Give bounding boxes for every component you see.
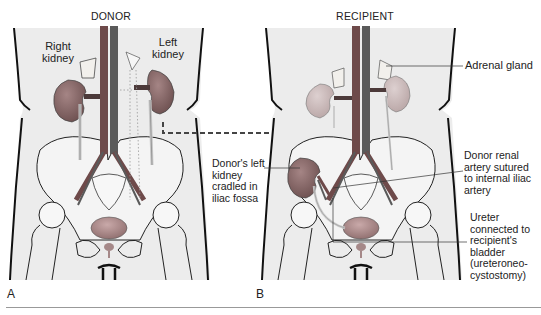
donor-kidney-label-line: cradled in [212,181,272,193]
left-kidney-label-line: kidney [148,49,188,61]
renal-artery-label: Donor renal artery sutured to internal i… [464,150,541,196]
left-kidney-label-line: Left [148,37,188,49]
kidney-transplant-figure: DONOR Right kidney Left kidney A RECIPIE… [0,0,541,315]
right-kidney-label-line: Right [38,41,78,53]
recipient-panel [262,26,467,280]
ureter-label-line: recipient's [470,235,541,247]
ureter-label-line: (ureteroneo- [470,258,541,270]
donor-title: DONOR [86,11,136,23]
renal-artery-label-line: to internal iliac [464,173,541,185]
left-kidney-label: Left kidney [148,37,188,60]
ureter-label-line: Ureter [470,212,541,224]
bottom-divider [6,307,541,308]
renal-artery-label-line: artery [464,185,541,197]
right-kidney-label: Right kidney [38,41,78,64]
recipient-title: RECIPIENT [330,11,400,23]
panel-letter-b: B [256,289,264,301]
donor-kidney-label: Donor's left kidney cradled in iliac fos… [212,158,272,204]
ureter-label: Ureter connected to recipient's bladder … [470,212,541,281]
donor-kidney-label-line: iliac fossa [212,193,272,205]
donor-kidney-label-line: Donor's left [212,158,272,170]
adrenal-gland-label: Adrenal gland [465,60,541,72]
renal-artery-label-line: Donor renal [464,150,541,162]
right-kidney-label-line: kidney [38,53,78,65]
ureter-label-line: cystostomy) [470,270,541,282]
panel-letter-a: A [7,289,15,301]
